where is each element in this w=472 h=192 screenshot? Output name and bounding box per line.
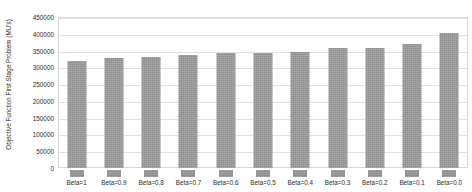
legend-swatch: [293, 170, 307, 177]
legend-swatch: [405, 170, 419, 177]
y-axis-tick-label: 400000: [33, 30, 54, 37]
bar-slot: [319, 17, 356, 168]
bars-layer: [58, 17, 468, 168]
bar-chart: Objective Function First Stage Problem (…: [0, 0, 472, 192]
x-axis-labels: Beta=1Beta=0.9Beta=0.8Beta=0.7Beta=0.6Be…: [58, 170, 468, 192]
bar[interactable]: [179, 55, 198, 168]
y-axis-tick-label: 100000: [33, 131, 54, 138]
bar-slot: [356, 17, 393, 168]
bar[interactable]: [253, 53, 272, 168]
x-axis-tick-label: Beta=0.9: [101, 179, 126, 186]
x-axis-tick-label: Beta=0.1: [399, 179, 424, 186]
x-axis-tick-label: Beta=0.3: [325, 179, 350, 186]
bar[interactable]: [365, 48, 384, 168]
x-axis-category[interactable]: Beta=0.5: [244, 170, 281, 186]
x-axis-category[interactable]: Beta=0.3: [319, 170, 356, 186]
x-axis-tick-label: Beta=0.5: [250, 179, 275, 186]
y-axis-tick-label: 50000: [36, 148, 54, 155]
bar-slot: [244, 17, 281, 168]
y-axis-tick-label: 250000: [33, 81, 54, 88]
y-axis-tick-label: 350000: [33, 47, 54, 54]
y-axis-title-text: Objective Function First Stage Problem (…: [5, 19, 12, 150]
x-axis-category[interactable]: Beta=0.4: [282, 170, 319, 186]
bar-slot: [207, 17, 244, 168]
y-axis-tick-label: 200000: [33, 97, 54, 104]
bar[interactable]: [403, 44, 422, 168]
legend-swatch: [442, 170, 456, 177]
bar[interactable]: [291, 52, 310, 168]
bar-slot: [95, 17, 132, 168]
y-axis-tick-label: 300000: [33, 64, 54, 71]
x-axis-tick-label: Beta=0.7: [176, 179, 201, 186]
legend-swatch: [181, 170, 195, 177]
y-axis-tick-label: 150000: [33, 114, 54, 121]
legend-swatch: [331, 170, 345, 177]
x-axis-tick-label: Beta=1: [67, 179, 87, 186]
x-axis-tick-label: Beta=0.0: [437, 179, 462, 186]
bar[interactable]: [104, 58, 123, 168]
bar[interactable]: [328, 48, 347, 168]
legend-swatch: [107, 170, 121, 177]
x-axis-tick-label: Beta=0.2: [362, 179, 387, 186]
bar-slot: [170, 17, 207, 168]
legend-swatch: [256, 170, 270, 177]
x-axis-category[interactable]: Beta=0.6: [207, 170, 244, 186]
x-axis-tick-label: Beta=0.6: [213, 179, 238, 186]
x-axis-category[interactable]: Beta=0.9: [95, 170, 132, 186]
x-axis-tick-label: Beta=0.4: [288, 179, 313, 186]
bar[interactable]: [440, 33, 459, 168]
bar[interactable]: [216, 53, 235, 168]
x-axis-category[interactable]: Beta=1: [58, 170, 95, 186]
y-axis-tick-labels: 0500001000001500002000002500003000003500…: [14, 10, 56, 172]
bar[interactable]: [67, 61, 86, 168]
y-axis-tick-label: 0: [50, 165, 54, 172]
legend-swatch: [219, 170, 233, 177]
bar-slot: [282, 17, 319, 168]
bar-slot: [133, 17, 170, 168]
x-axis-tick-label: Beta=0.8: [138, 179, 163, 186]
bar-slot: [58, 17, 95, 168]
x-axis-category[interactable]: Beta=0.1: [393, 170, 430, 186]
bar-slot: [431, 17, 468, 168]
y-axis-tick-label: 450000: [33, 14, 54, 21]
x-axis-category[interactable]: Beta=0.2: [356, 170, 393, 186]
legend-swatch: [144, 170, 158, 177]
x-axis-category[interactable]: Beta=0.7: [170, 170, 207, 186]
bar[interactable]: [142, 57, 161, 168]
x-axis-category[interactable]: Beta=0.8: [133, 170, 170, 186]
bar-slot: [393, 17, 430, 168]
legend-swatch: [70, 170, 84, 177]
x-axis-category[interactable]: Beta=0.0: [431, 170, 468, 186]
legend-swatch: [368, 170, 382, 177]
